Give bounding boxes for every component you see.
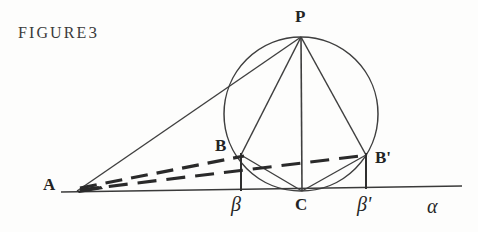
baseline-ray-alpha [61, 186, 462, 192]
point-label-B: B [215, 137, 226, 154]
point-label-A: A [43, 176, 55, 193]
figure-3-diagram: FIGURE3 P A B B' C β β' α [0, 0, 478, 232]
segment-P-to-C [301, 37, 302, 191]
segment-P-to-B [241, 37, 301, 155]
axis-label-alpha: α [427, 196, 438, 216]
point-label-B-prime: B' [375, 149, 391, 166]
point-label-C: C [295, 196, 307, 213]
figure-caption-number: 3 [88, 23, 97, 42]
point-label-P: P [295, 8, 305, 25]
point-label-beta: β [231, 194, 241, 214]
point-label-beta-prime: β' [357, 194, 371, 214]
figure-caption-word: FIGURE [18, 24, 88, 41]
figure-caption: FIGURE3 [18, 24, 97, 41]
segment-P-to-B-prime [301, 37, 366, 155]
